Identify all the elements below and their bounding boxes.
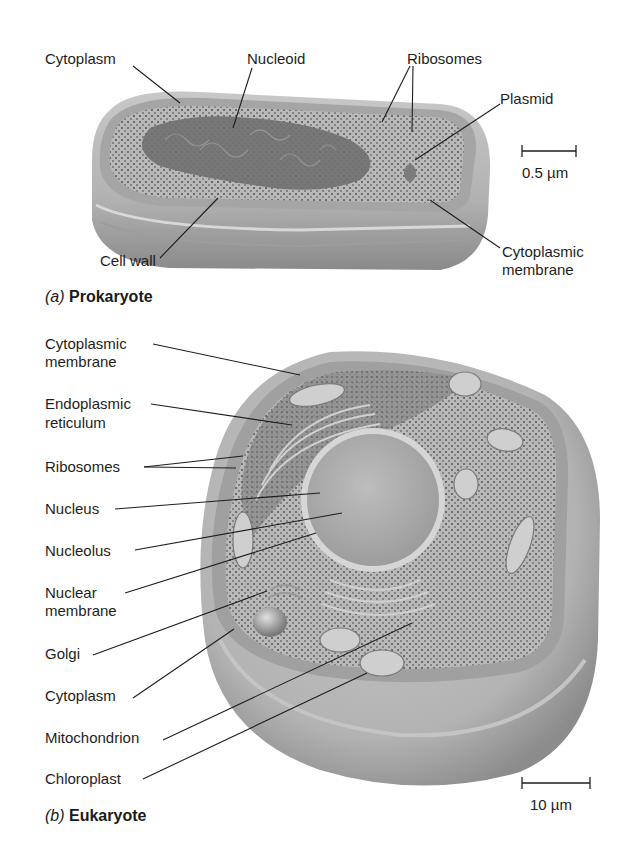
label-nucleoid: Nucleoid bbox=[247, 50, 305, 68]
label-nucleolus: Nucleolus bbox=[45, 542, 111, 560]
label-cytoplasmic-membrane-line1: Cytoplasmic bbox=[502, 243, 584, 261]
eukaryote-cell bbox=[200, 351, 600, 785]
prokaryote-scale-label: 0.5 µm bbox=[522, 164, 568, 182]
label-nuclear-membrane-line2: membrane bbox=[45, 602, 117, 620]
label-nucleus: Nucleus bbox=[45, 500, 99, 518]
caption-title: Prokaryote bbox=[69, 288, 153, 305]
prokaryote-cell bbox=[92, 91, 490, 270]
label-chloroplast: Chloroplast bbox=[45, 770, 121, 788]
caption-title: Eukaryote bbox=[69, 807, 146, 824]
prokaryote-scale-bar bbox=[522, 145, 576, 157]
caption-letter: (a) bbox=[45, 288, 65, 305]
caption-eukaryote: (b) Eukaryote bbox=[45, 806, 146, 825]
label-ribosomes: Ribosomes bbox=[45, 458, 120, 476]
label-mitochondrion: Mitochondrion bbox=[45, 729, 139, 747]
label-cell-wall: Cell wall bbox=[100, 252, 156, 270]
label-nuclear-membrane-line1: Nuclear bbox=[45, 584, 97, 602]
eukaryote-scale-label: 10 µm bbox=[530, 796, 572, 814]
label-ribosomes: Ribosomes bbox=[407, 50, 482, 68]
label-plasmid: Plasmid bbox=[500, 90, 553, 108]
label-cytoplasm: Cytoplasm bbox=[45, 50, 116, 68]
label-endoplasmic-reticulum-line1: Endoplasmic bbox=[45, 395, 131, 413]
caption-prokaryote: (a) Prokaryote bbox=[45, 287, 153, 306]
label-cytoplasmic-membrane-line1: Cytoplasmic bbox=[45, 335, 127, 353]
label-cytoplasm: Cytoplasm bbox=[45, 687, 116, 705]
label-cytoplasmic-membrane-line2: membrane bbox=[502, 261, 574, 279]
label-cytoplasmic-membrane-line2: membrane bbox=[45, 353, 117, 371]
label-endoplasmic-reticulum-line2: reticulum bbox=[45, 414, 106, 432]
eukaryote-scale-bar bbox=[522, 777, 590, 789]
caption-letter: (b) bbox=[45, 807, 65, 824]
label-golgi: Golgi bbox=[45, 645, 80, 663]
